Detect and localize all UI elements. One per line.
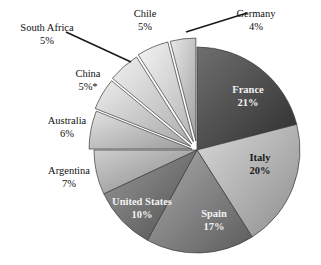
pie-label-value-united-states: 10% [102,209,182,222]
pie-label-name-china: China [48,68,128,81]
pie-label-value-south-africa: 5% [7,35,87,48]
pie-label-name-germany: Germany [216,8,296,21]
pie-label-name-france: France [208,84,288,97]
pie-label-name-united-states: United States [102,196,182,209]
pie-label-france: France21% [208,84,288,109]
pie-label-argentina: Argentina7% [29,165,109,190]
pie-label-chile: Chile5% [105,8,185,33]
pie-label-value-chile: 5% [105,21,185,34]
pie-label-name-italy: Italy [220,152,300,165]
pie-label-name-australia: Australia [27,115,107,128]
pie-label-italy: Italy20% [220,152,300,177]
pie-label-value-australia: 6% [27,128,107,141]
pie-chart: France21%Italy20%Spain17%United States10… [0,0,321,265]
pie-label-spain: Spain17% [174,208,254,233]
pie-label-germany: Germany4% [216,8,296,33]
pie-label-name-chile: Chile [105,8,185,21]
pie-label-name-south-africa: South Africa [7,22,87,35]
pie-label-value-spain: 17% [174,221,254,234]
pie-label-value-germany: 4% [216,21,296,34]
pie-label-australia: Australia6% [27,115,107,140]
pie-label-china: China5%* [48,68,128,93]
pie-label-value-china: 5%* [48,81,128,94]
pie-label-name-argentina: Argentina [29,165,109,178]
pie-label-name-spain: Spain [174,208,254,221]
pie-label-value-argentina: 7% [29,178,109,191]
pie-label-united-states: United States10% [102,196,182,221]
pie-label-value-france: 21% [208,97,288,110]
pie-label-south-africa: South Africa5% [7,22,87,47]
pie-label-value-italy: 20% [220,165,300,178]
